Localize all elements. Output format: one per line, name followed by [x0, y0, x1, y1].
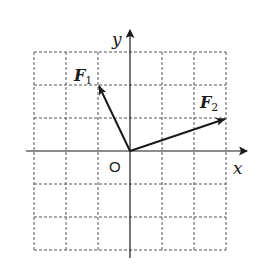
vector-f2-label: F2 — [199, 93, 218, 114]
origin-label: O — [109, 158, 121, 175]
vector-f2-arrow — [130, 119, 225, 151]
y-axis-label: y — [111, 29, 122, 49]
vector-f1-label: F1 — [73, 66, 92, 87]
vector-diagram: y x O F1 F2 — [0, 0, 261, 269]
x-axis-label: x — [233, 158, 243, 178]
